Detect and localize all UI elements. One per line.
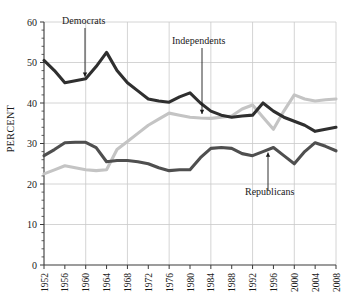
x-tick-label: 1996 — [269, 273, 279, 292]
line-chart-party-identification: 0102030405060 19521956196019641968197219… — [0, 0, 344, 300]
y-axis-title-text: PERCENT — [5, 105, 16, 152]
series-lines — [44, 52, 336, 174]
x-tick-label: 1976 — [165, 273, 175, 292]
x-tick-label: 1972 — [144, 273, 154, 292]
x-tick-label: 2004 — [311, 273, 321, 292]
x-tick-label: 1988 — [227, 273, 237, 292]
y-tick-label: 0 — [32, 260, 37, 271]
y-tick-label: 10 — [27, 219, 37, 230]
x-tick-label: 1984 — [206, 273, 216, 292]
x-tick-label: 1952 — [40, 273, 50, 292]
chart-plot-area: 0102030405060 19521956196019641968197219… — [0, 0, 344, 300]
annotation-arrowhead-republicans — [266, 153, 270, 157]
series-line-democrats — [44, 52, 336, 131]
annotation-arrowhead-independents — [200, 110, 204, 114]
y-tick-label: 40 — [27, 98, 37, 109]
y-axis: 0102030405060 — [27, 17, 44, 271]
annotation-label-republicans: Republicans — [245, 186, 295, 197]
x-axis: 1952195619601964196819721976198019841988… — [40, 265, 342, 292]
y-tick-label: 60 — [27, 17, 37, 28]
x-tick-label: 1968 — [123, 273, 133, 292]
x-tick-label: 1992 — [248, 273, 258, 292]
y-tick-label: 30 — [27, 138, 37, 149]
y-tick-label: 50 — [27, 57, 37, 68]
annotation-label-democrats: Democrats — [62, 15, 105, 26]
series-line-republicans — [44, 142, 336, 170]
x-tick-label: 1956 — [60, 273, 70, 292]
y-axis-title: PERCENT — [5, 105, 16, 152]
x-tick-label: 1964 — [102, 273, 112, 292]
x-tick-label: 2008 — [332, 273, 342, 292]
annotation-label-independents: Independents — [172, 35, 225, 46]
y-tick-label: 20 — [27, 179, 37, 190]
x-tick-label: 2000 — [290, 273, 300, 292]
x-tick-label: 1960 — [81, 273, 91, 292]
x-tick-label: 1980 — [186, 273, 196, 292]
